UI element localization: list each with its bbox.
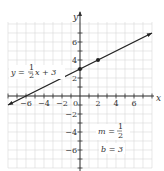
svg-text:6: 6: [72, 38, 77, 47]
svg-text:2: 2: [118, 131, 123, 140]
origin-label: 0: [73, 99, 78, 108]
svg-text:4: 4: [113, 99, 118, 108]
svg-text:−4: −4: [65, 128, 77, 137]
svg-text:m =: m =: [98, 127, 115, 136]
svg-text:1: 1: [118, 122, 123, 131]
svg-text:−6: −6: [20, 99, 32, 108]
svg-text:4: 4: [72, 56, 77, 65]
y-axis-label: y: [72, 12, 79, 22]
svg-text:6: 6: [131, 99, 136, 108]
svg-text:2: 2: [29, 71, 34, 80]
svg-text:b = 3: b = 3: [101, 145, 123, 154]
svg-text:2: 2: [95, 99, 100, 108]
intercept-label: b = 3: [99, 143, 125, 154]
svg-text:−2: −2: [56, 99, 68, 108]
equation-label: y = 1 2 x + 3: [9, 63, 65, 80]
data-point: [96, 58, 100, 62]
svg-text:−6: −6: [65, 146, 77, 155]
svg-text:x + 3: x + 3: [35, 68, 56, 77]
slope-label: m = 1 2: [96, 122, 130, 140]
svg-text:−4: −4: [38, 99, 50, 108]
data-point: [78, 67, 82, 71]
line-chart: −6−4−2246642−2−4−6 y x 0 y = 1 2 x + 3 m…: [0, 0, 164, 171]
svg-text:−2: −2: [65, 110, 77, 119]
x-axis-label: x: [156, 93, 161, 103]
svg-text:2: 2: [72, 74, 77, 83]
axes: [8, 11, 154, 171]
svg-text:y =: y =: [10, 68, 25, 77]
